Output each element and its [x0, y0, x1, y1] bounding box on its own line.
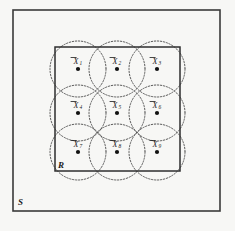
point-label-4: X: [73, 101, 80, 110]
sample-point-2: X 2: [110, 57, 122, 72]
sample-point-6: X 6: [150, 101, 162, 116]
sample-point-8: X 8: [110, 140, 122, 155]
sample-point-3: X 3: [150, 57, 162, 72]
sample-point-9: X 9: [150, 140, 162, 155]
point-subscript-7: 7: [80, 143, 83, 149]
point-subscript-9: 9: [159, 143, 162, 149]
point-label-6: X: [152, 101, 159, 110]
point-subscript-3: 3: [158, 60, 162, 66]
point-dot-3: [155, 67, 159, 71]
point-label-2: X: [112, 57, 119, 66]
sample-point-5: X 5: [110, 101, 122, 116]
point-label-1: X: [73, 57, 80, 66]
outer-region-S-rect: [13, 10, 220, 211]
point-dot-9: [155, 150, 159, 154]
point-dot-2: [115, 67, 119, 71]
point-dot-4: [76, 111, 80, 115]
covering-circles-group: [50, 41, 185, 180]
point-dot-5: [115, 111, 119, 115]
sample-points-group: X 1 X 2 X 3 X 4: [71, 57, 162, 155]
point-subscript-4: 4: [80, 104, 83, 110]
point-dot-6: [155, 111, 159, 115]
point-subscript-1: 1: [80, 60, 83, 66]
point-subscript-6: 6: [159, 104, 162, 110]
figure-canvas: X 1 X 2 X 3 X 4: [0, 0, 235, 231]
sample-point-1: X 1: [71, 57, 83, 72]
sample-point-7: X 7: [71, 140, 83, 155]
point-subscript-8: 8: [119, 143, 122, 149]
figure-container: X 1 X 2 X 3 X 4: [0, 0, 235, 231]
point-label-3: X: [152, 57, 159, 66]
region-label-R: R: [57, 160, 64, 170]
region-label-S: S: [18, 197, 23, 207]
sample-point-4: X 4: [71, 101, 83, 116]
point-subscript-5: 5: [119, 104, 122, 110]
point-label-5: X: [112, 101, 119, 110]
point-dot-1: [76, 67, 80, 71]
point-dot-8: [115, 150, 119, 154]
point-dot-7: [76, 150, 80, 154]
point-subscript-2: 2: [119, 60, 122, 66]
